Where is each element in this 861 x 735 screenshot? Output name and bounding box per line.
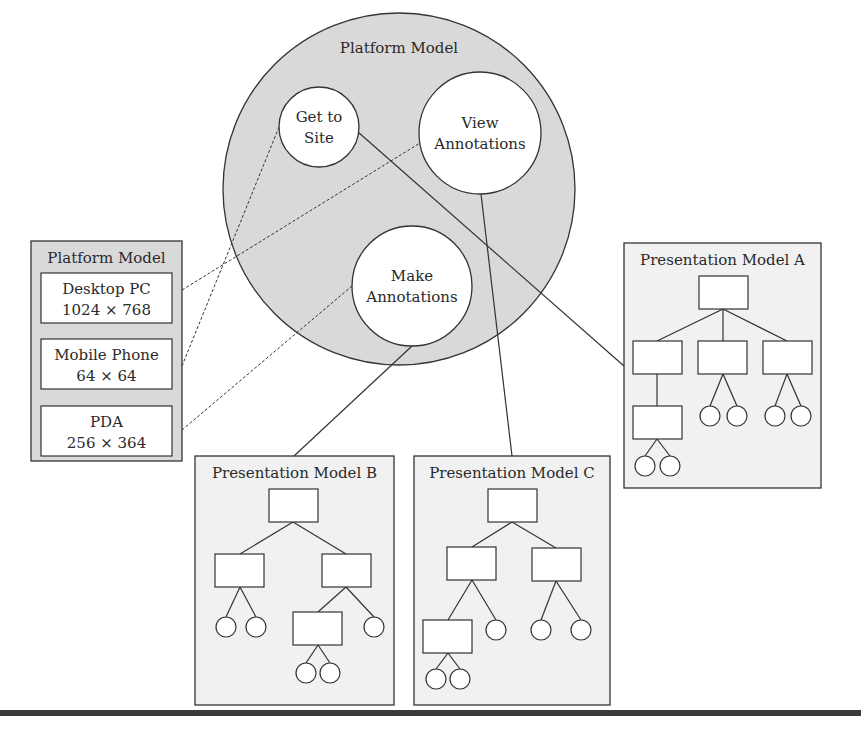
task-label: Annotations bbox=[365, 288, 457, 306]
tree-node-box bbox=[633, 406, 682, 439]
tree-leaf-circle bbox=[486, 620, 506, 640]
task-view-annotations: ViewAnnotations bbox=[419, 72, 541, 194]
task-label: Annotations bbox=[433, 135, 525, 153]
presentation-model-title: Presentation Model B bbox=[212, 464, 377, 482]
tree-leaf-circle bbox=[571, 620, 591, 640]
device-pda: PDA256 × 364 bbox=[41, 406, 172, 456]
presentation-model-b: Presentation Model B bbox=[195, 456, 394, 705]
tree-node-box bbox=[699, 276, 748, 309]
tree-leaf-circle bbox=[216, 617, 236, 637]
device-desktop-pc: Desktop PC1024 × 768 bbox=[41, 273, 172, 323]
task-make-annotations: MakeAnnotations bbox=[352, 226, 472, 346]
tree-leaf-circle bbox=[791, 406, 811, 426]
tree-node-box bbox=[322, 554, 371, 587]
tree-node-box bbox=[269, 489, 318, 522]
solid-connector bbox=[294, 346, 412, 456]
tree-leaf-circle bbox=[246, 617, 266, 637]
tree-leaf-circle bbox=[320, 663, 340, 683]
task-label: Site bbox=[304, 129, 334, 147]
tree-node-box bbox=[215, 554, 264, 587]
device-resolution: 256 × 364 bbox=[67, 434, 146, 452]
tree-leaf-circle bbox=[296, 663, 316, 683]
bottom-rule bbox=[0, 710, 861, 716]
task-circle bbox=[352, 226, 472, 346]
task-circle bbox=[419, 72, 541, 194]
platform-model-box-title: Platform Model bbox=[47, 249, 165, 267]
tree-node-box bbox=[447, 547, 496, 580]
tree-leaf-circle bbox=[765, 406, 785, 426]
task-label: View bbox=[460, 114, 498, 132]
task-circle bbox=[279, 87, 359, 167]
tree-leaf-circle bbox=[450, 669, 470, 689]
tree-leaf-circle bbox=[660, 456, 680, 476]
task-get-to-site: Get toSite bbox=[279, 87, 359, 167]
device-name: Desktop PC bbox=[62, 280, 151, 298]
device-mobile-phone: Mobile Phone64 × 64 bbox=[41, 339, 172, 389]
platform-model-circle-title: Platform Model bbox=[340, 39, 458, 57]
tree-leaf-circle bbox=[364, 617, 384, 637]
device-name: PDA bbox=[90, 413, 123, 431]
tree-node-box bbox=[763, 341, 812, 374]
task-label: Make bbox=[391, 267, 433, 285]
presentation-model-title: Presentation Model C bbox=[429, 464, 595, 482]
presentation-model-title: Presentation Model A bbox=[640, 251, 805, 269]
tree-node-box bbox=[293, 612, 342, 645]
tree-leaf-circle bbox=[727, 406, 747, 426]
tree-leaf-circle bbox=[635, 456, 655, 476]
tree-node-box bbox=[633, 341, 682, 374]
tree-node-box bbox=[532, 548, 581, 581]
task-label: Get to bbox=[296, 108, 343, 126]
tree-node-box bbox=[423, 620, 472, 653]
tree-leaf-circle bbox=[426, 669, 446, 689]
tree-leaf-circle bbox=[700, 406, 720, 426]
presentation-model-a: Presentation Model A bbox=[624, 243, 821, 488]
device-resolution: 64 × 64 bbox=[76, 367, 136, 385]
tree-leaf-circle bbox=[531, 620, 551, 640]
device-name: Mobile Phone bbox=[54, 346, 159, 364]
platform-presentation-diagram: Platform ModelPlatform ModelDesktop PC10… bbox=[0, 0, 861, 735]
tree-node-box bbox=[488, 489, 537, 522]
presentation-model-c: Presentation Model C bbox=[414, 456, 610, 705]
device-resolution: 1024 × 768 bbox=[62, 301, 151, 319]
tree-node-box bbox=[698, 341, 747, 374]
